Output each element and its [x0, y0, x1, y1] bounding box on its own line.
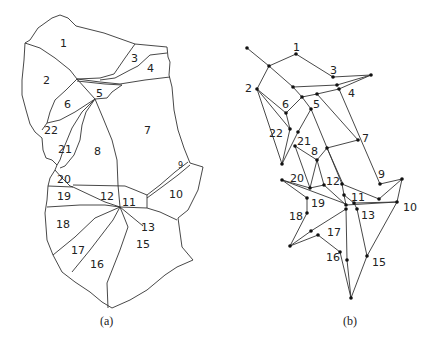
map-panel-a: 1 2 3 4 5 6 7 8 9 10 11 12 13 15 16 17 1…: [22, 15, 203, 328]
region-5: 5: [96, 87, 103, 100]
region-21: 21: [58, 143, 72, 156]
region-18: 18: [56, 218, 70, 231]
node-label-17: 17: [327, 226, 341, 239]
node-label-5: 5: [313, 98, 320, 111]
node-label-2: 2: [245, 82, 252, 95]
boundary-1-3: [77, 44, 135, 79]
node-label-7: 7: [362, 132, 369, 145]
region-2: 2: [43, 74, 50, 87]
region-7: 7: [144, 124, 151, 137]
node-label-10: 10: [403, 201, 417, 214]
region-20: 20: [57, 173, 71, 186]
node-label-13: 13: [361, 209, 375, 222]
node-label-9: 9: [378, 168, 385, 181]
map-outline: [22, 15, 203, 308]
node-label-16: 16: [326, 251, 340, 264]
region-10: 10: [169, 188, 183, 201]
node-label-3: 3: [330, 64, 337, 77]
region-13: 13: [141, 221, 155, 234]
node-label-4: 4: [348, 87, 355, 100]
region-11: 11: [122, 196, 136, 209]
region-15: 15: [136, 238, 150, 251]
node-label-18: 18: [289, 210, 303, 223]
node-label-22: 22: [269, 127, 283, 140]
node-label-1: 1: [293, 41, 300, 54]
node-label-19: 19: [311, 197, 325, 210]
map-region-labels: 1 2 3 4 5 6 7 8 9 10 11 12 13 15 16 17 1…: [43, 37, 183, 271]
node-label-6: 6: [282, 98, 289, 111]
region-22: 22: [44, 124, 58, 137]
boundary-19-18: [47, 205, 120, 207]
region-19: 19: [57, 190, 71, 203]
graph-node-labels: 1 2 3 4 5 6 7 8 9 10 11 12 13 15 16 17 1…: [245, 41, 417, 269]
node-label-8: 8: [311, 145, 318, 158]
region-12: 12: [100, 190, 114, 203]
region-1: 1: [60, 37, 67, 50]
region-9: 9: [178, 161, 183, 170]
node-label-21: 21: [297, 135, 311, 148]
boundary-12-11: [118, 185, 120, 207]
node-label-20: 20: [290, 172, 304, 185]
boundary-18-17: [53, 207, 120, 255]
boundary-8-12: [73, 185, 125, 186]
boundary-8-7: [95, 99, 118, 185]
caption-b: (b): [343, 314, 357, 328]
region-3: 3: [131, 52, 138, 65]
region-17: 17: [71, 244, 85, 257]
boundary-16-15: [107, 207, 128, 308]
node-label-12: 12: [326, 175, 340, 188]
graph-panel-b: 1 2 3 4 5 6 7 8 9 10 11 12 13 15 16 17 1…: [245, 41, 417, 328]
caption-a: (a): [100, 314, 113, 328]
region-8: 8: [94, 145, 101, 158]
figure-canvas: 1 2 3 4 5 6 7 8 9 10 11 12 13 15 16 17 1…: [0, 0, 433, 341]
region-6: 6: [64, 98, 71, 111]
node-label-15: 15: [372, 256, 386, 269]
node-label-11: 11: [351, 191, 365, 204]
boundary-1-2: [25, 43, 77, 79]
region-16: 16: [90, 258, 104, 271]
region-4: 4: [147, 62, 154, 75]
boundary-2-6: [47, 79, 77, 123]
